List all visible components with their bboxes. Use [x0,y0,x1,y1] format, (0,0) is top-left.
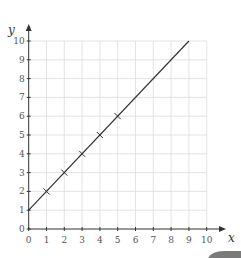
data-series [29,41,189,210]
x-tick-label: 5 [115,235,121,245]
x-tick-label: 4 [97,235,103,245]
y-tick-label: 5 [19,130,25,140]
y-tick-label: 6 [19,111,25,121]
x-tick-label: 1 [44,235,50,245]
data-line [29,41,189,210]
x-axis-arrow-icon [219,226,226,232]
x-tick-label: 0 [26,235,32,245]
x-tick-label: 10 [201,235,213,245]
x-tick-label: 2 [61,235,67,245]
y-axis-label: y [7,23,15,37]
x-axis-label: x [228,231,235,245]
y-tick-label: 10 [13,36,25,46]
y-tick-label: 8 [19,74,25,84]
y-tick-label: 0 [19,224,25,234]
y-tick-label: 4 [19,149,25,159]
grid-lines [29,41,207,229]
y-axis-arrow-icon [26,24,32,31]
x-tick-label: 6 [133,235,139,245]
tick-labels: 012345678910012345678910 [13,36,212,245]
page-corner-tab [208,251,241,258]
y-tick-label: 9 [19,55,25,65]
y-tick-label: 3 [19,168,25,178]
line-chart: 012345678910012345678910 x y [0,0,241,258]
y-tick-label: 7 [19,92,25,102]
x-tick-label: 3 [79,235,85,245]
x-tick-label: 8 [168,235,174,245]
y-tick-label: 2 [19,186,25,196]
axes [26,24,226,232]
x-tick-label: 7 [150,235,156,245]
x-tick-label: 9 [186,235,192,245]
y-tick-label: 1 [19,205,25,215]
